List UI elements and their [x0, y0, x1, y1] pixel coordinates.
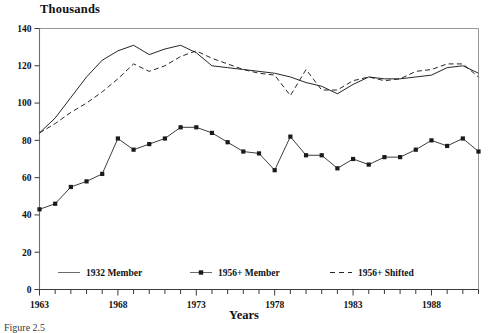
series-marker [69, 185, 73, 189]
y-tick-label: 80 [22, 136, 32, 146]
series-line-1956-shifted [40, 51, 479, 133]
series-marker [351, 157, 355, 161]
series-marker [194, 125, 198, 129]
series-marker [414, 148, 418, 152]
series-marker [476, 149, 480, 153]
legend-item-1956-member[interactable]: 1956+ Member [190, 268, 280, 278]
series-line-1956-member [40, 127, 479, 209]
legend-swatch-marker [199, 270, 203, 274]
series-line-1932-member [40, 45, 479, 133]
series-marker [461, 136, 465, 140]
data-series-group [37, 45, 480, 211]
series-marker [210, 131, 214, 135]
series-marker [320, 153, 324, 157]
legend-label: 1956+ Member [218, 268, 280, 278]
legend-item-1932-member[interactable]: 1932 Member [58, 268, 143, 278]
y-tick-label: 0 [27, 285, 32, 295]
series-marker [429, 138, 433, 142]
series-marker [131, 148, 135, 152]
series-marker [163, 136, 167, 140]
chart-legend: 1932 Member1956+ Member1956+ Shifted [58, 268, 415, 278]
series-marker [367, 162, 371, 166]
series-marker [116, 136, 120, 140]
series-marker [273, 168, 277, 172]
series-marker [257, 151, 261, 155]
series-marker [304, 153, 308, 157]
y-tick-label: 20 [22, 248, 32, 258]
series-marker [335, 166, 339, 170]
y-tick-label: 120 [17, 61, 32, 71]
series-marker [288, 135, 292, 139]
series-marker [382, 155, 386, 159]
series-marker [53, 202, 57, 206]
y-tick-label: 40 [22, 210, 32, 220]
series-marker [84, 179, 88, 183]
legend-item-1956-shifted[interactable]: 1956+ Shifted [330, 268, 415, 278]
series-marker [241, 149, 245, 153]
x-axis-title: Years [0, 308, 488, 323]
series-marker [179, 125, 183, 129]
series-marker [398, 155, 402, 159]
y-tick-label: 100 [17, 98, 32, 108]
y-axis-ticks: 020406080100120140 [17, 24, 39, 295]
x-axis-ticks: 196319681973197819831988 [30, 290, 479, 310]
series-marker [147, 142, 151, 146]
series-marker [445, 144, 449, 148]
series-marker [37, 207, 41, 211]
legend-label: 1956+ Shifted [358, 268, 415, 278]
legend-label: 1932 Member [86, 268, 143, 278]
plot-frame [40, 29, 479, 290]
series-marker [100, 172, 104, 176]
series-marker [226, 140, 230, 144]
figure-caption: Figure 2.5 [4, 322, 45, 333]
y-tick-label: 60 [22, 173, 32, 183]
y-tick-label: 140 [17, 24, 32, 34]
